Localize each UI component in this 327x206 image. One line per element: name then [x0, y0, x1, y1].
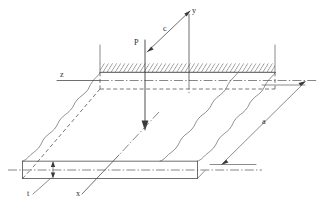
label-axis-z: z	[60, 70, 64, 79]
label-distance-c: c	[163, 24, 167, 33]
label-dimension-a: a	[262, 117, 266, 126]
c-dimension-arrowhead-lower	[147, 47, 154, 52]
y-axis-group: y	[189, 6, 197, 95]
plate-load-diagram: z y c P x	[0, 0, 327, 206]
t-dimension-group: t	[27, 161, 55, 198]
diagram-canvas: z y c P x	[0, 0, 327, 206]
a-dimension-group: a	[210, 81, 306, 165]
c-dimension-group: c	[147, 11, 191, 52]
left-break-edge-top	[23, 73, 101, 162]
x-axis-group: x	[76, 112, 159, 198]
label-thickness-t: t	[27, 189, 30, 198]
label-axis-y: y	[192, 6, 197, 15]
load-arrow-head	[142, 121, 149, 132]
plate-top-surface	[23, 73, 276, 162]
plate-left-depth-edge-hidden	[23, 170, 31, 179]
t-dimension-leader	[33, 178, 51, 194]
point-load-group: P	[134, 38, 148, 131]
c-dimension-line	[147, 11, 190, 52]
right-break-edge-inner	[160, 73, 238, 162]
label-load-p: P	[134, 38, 139, 47]
plate-right-depth-edge-bottom	[198, 171, 206, 179]
t-dimension-arrowhead-top	[51, 161, 55, 167]
hidden-left-receding-edge	[31, 89, 101, 170]
x-axis-upper-segment	[119, 112, 159, 155]
t-dimension-arrowhead-bottom	[51, 173, 55, 179]
hidden-edges-group	[31, 72, 276, 170]
clamped-edge-hatching	[100, 63, 275, 72]
clamped-edge-group	[100, 45, 275, 72]
label-axis-x: x	[76, 189, 80, 198]
